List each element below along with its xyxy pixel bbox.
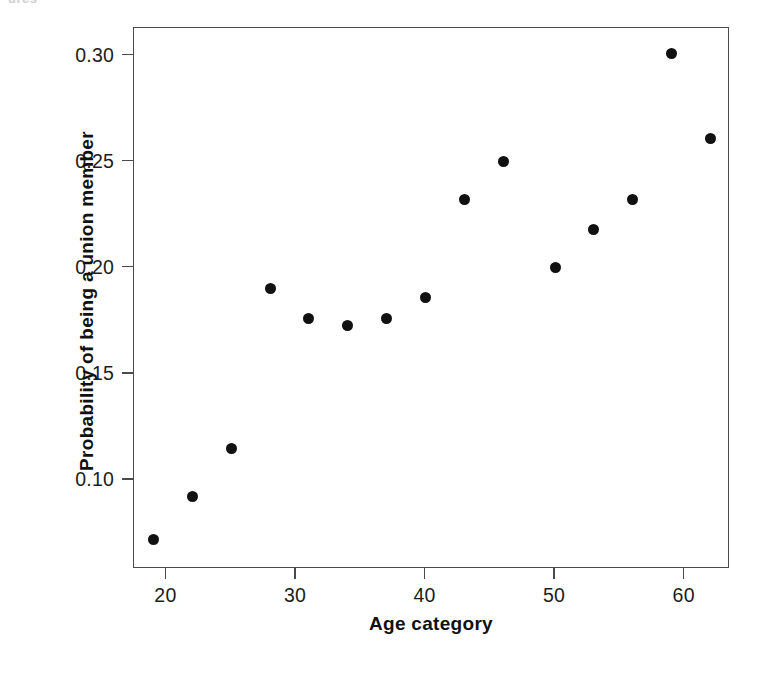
x-axis-tick: [683, 568, 684, 579]
data-point: [550, 262, 561, 273]
x-axis-tick: [553, 568, 554, 579]
x-axis-tick: [165, 568, 166, 579]
data-point: [342, 320, 353, 331]
x-axis-title: Age category: [133, 613, 729, 635]
x-axis-tick-label: 40: [395, 584, 455, 607]
data-point: [226, 443, 237, 454]
data-point: [588, 224, 599, 235]
x-axis-tick: [424, 568, 425, 579]
plot-frame: [133, 27, 729, 568]
data-point: [381, 313, 392, 324]
data-point: [303, 313, 314, 324]
data-point: [627, 194, 638, 205]
data-point: [187, 491, 198, 502]
x-axis-tick-label: 30: [265, 584, 325, 607]
y-axis-tick: [122, 160, 133, 161]
data-point: [498, 156, 509, 167]
data-point: [705, 133, 716, 144]
y-axis-tick: [122, 266, 133, 267]
x-axis-tick-label: 60: [654, 584, 714, 607]
x-axis-tick: [294, 568, 295, 579]
y-axis-tick: [122, 372, 133, 373]
x-axis-tick-label: 50: [524, 584, 584, 607]
y-axis-tick: [122, 478, 133, 479]
data-point: [666, 48, 677, 59]
data-point: [420, 292, 431, 303]
data-point: [459, 194, 470, 205]
chart-page: ures 0.100.150.200.250.30 Age category P…: [0, 0, 769, 673]
y-axis-title: Probability of being a union member: [76, 31, 98, 571]
y-axis-tick: [122, 54, 133, 55]
data-point: [265, 283, 276, 294]
data-point: [148, 534, 159, 545]
plot-area: [134, 28, 728, 567]
x-axis-tick-label: 20: [135, 584, 195, 607]
